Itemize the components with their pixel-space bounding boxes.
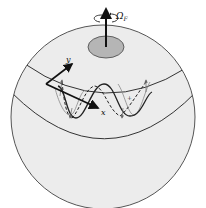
- rotation-label: ΩF: [115, 11, 128, 22]
- sphere-diagram: ΩF y x +: [0, 0, 206, 208]
- y-axis-label: y: [65, 55, 71, 64]
- plus-label: +: [127, 94, 132, 101]
- x-axis-label: x: [101, 108, 106, 117]
